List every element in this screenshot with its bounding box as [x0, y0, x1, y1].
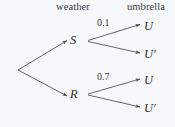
edge-s-to-u	[88, 25, 140, 41]
edge-r-to-uprime	[88, 95, 140, 107]
probability-tree-diagram: weather umbrella S R U U′ U U′ 0.1 0.7	[0, 0, 175, 127]
edge-probability-s-to-u: 0.1	[97, 18, 110, 28]
leaf-label-uprime-rainy: U′	[144, 102, 156, 115]
edge-root-to-s	[18, 41, 67, 71]
edge-probability-r-to-u: 0.7	[97, 72, 110, 82]
node-label-s: S	[70, 34, 76, 47]
leaf-label-uprime-sunny: U′	[144, 48, 156, 61]
edge-s-to-uprime	[88, 42, 140, 54]
edge-root-to-r	[18, 70, 67, 96]
column-header-umbrella: umbrella	[127, 1, 165, 12]
column-header-weather: weather	[56, 1, 90, 12]
node-label-r: R	[70, 88, 78, 101]
edge-r-to-u	[88, 79, 140, 94]
leaf-label-u-sunny: U	[144, 20, 153, 33]
leaf-label-u-rainy: U	[144, 74, 153, 87]
